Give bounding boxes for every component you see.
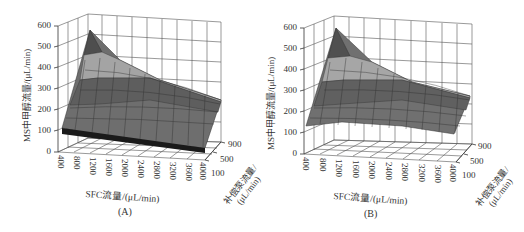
x-tick: 3600 — [433, 165, 443, 183]
panel-caption: (A) — [118, 206, 132, 217]
x-tick: 1600 — [104, 158, 114, 176]
x-tick: 2800 — [152, 161, 162, 179]
x-tick: 400 — [301, 157, 311, 171]
chart-panel-a: 0 100 200 300 400 500 600 MS中甲醇流量/(μL/mi… — [0, 0, 262, 232]
y-axis-label: MS中甲醇流量/(μL/min) — [264, 57, 277, 150]
y-tick: 500 — [271, 43, 297, 53]
x-tick: 1200 — [88, 157, 98, 175]
x-tick: 2000 — [120, 159, 130, 177]
panel-caption: (B) — [364, 208, 377, 219]
z-tick: 100 — [211, 168, 225, 178]
x-tick: 2400 — [384, 162, 394, 180]
x-tick: 2000 — [367, 161, 377, 179]
x-tick: 800 — [318, 158, 328, 172]
x-tick: 3200 — [168, 162, 178, 180]
x-tick: 2800 — [400, 163, 410, 181]
x-tick: 4000 — [448, 164, 458, 182]
z-tick: 900 — [228, 139, 242, 149]
x-tick: 800 — [72, 156, 82, 170]
z-tick: 500 — [220, 154, 234, 164]
x-tick: 4000 — [198, 162, 208, 180]
y-tick: 600 — [271, 22, 297, 32]
x-tick: 2400 — [136, 160, 146, 178]
x-tick: 400 — [56, 155, 66, 169]
y-tick: 600 — [25, 20, 51, 30]
x-tick: 3600 — [184, 163, 194, 181]
chart-panel-b: 0 100 200 300 400 500 600 MS中甲醇流量/(μL/mi… — [262, 0, 524, 232]
y-tick: 0 — [25, 146, 51, 156]
x-tick: 3200 — [417, 164, 427, 182]
x-tick: 1200 — [334, 159, 344, 177]
y-axis-label: MS中甲醇流量/(μL/min) — [20, 49, 33, 142]
z-tick: 500 — [470, 156, 484, 166]
z-tick: 100 — [462, 170, 476, 180]
x-tick: 1600 — [351, 160, 361, 178]
z-tick: 900 — [478, 141, 492, 151]
